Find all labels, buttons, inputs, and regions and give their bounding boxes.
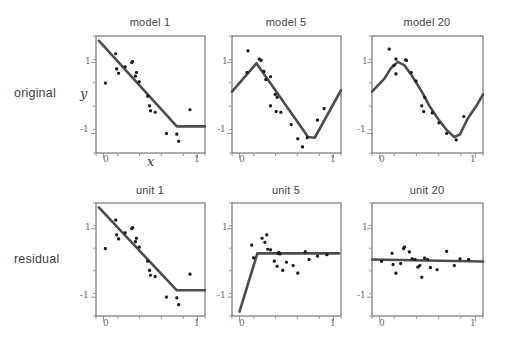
data-point xyxy=(380,260,383,263)
data-point xyxy=(260,59,263,62)
panel-frame-model-20 xyxy=(372,36,483,153)
data-point xyxy=(276,96,279,99)
ytick-bottom-unit-5: -1 xyxy=(217,290,226,300)
data-point xyxy=(274,93,277,96)
data-point xyxy=(275,110,278,113)
row-label-original: original xyxy=(14,86,56,100)
panel-title-unit-1: unit 1 xyxy=(96,184,204,196)
data-point xyxy=(175,133,178,136)
data-point xyxy=(276,265,279,268)
data-point xyxy=(304,250,307,253)
panel-model-5 xyxy=(227,36,341,158)
data-point xyxy=(281,269,284,272)
data-point xyxy=(418,264,421,267)
xtick-0-unit-1: 0 xyxy=(103,318,109,328)
data-point xyxy=(269,248,272,251)
data-point xyxy=(453,264,456,267)
data-point xyxy=(262,70,265,73)
data-point xyxy=(117,72,120,75)
xtick-1-model-20: 1 xyxy=(470,154,476,164)
data-point xyxy=(420,104,423,107)
data-point xyxy=(458,257,461,260)
data-point xyxy=(390,252,393,255)
data-point xyxy=(429,266,432,269)
ytick-top-unit-5: 1 xyxy=(222,222,228,232)
y-axis-label: y xyxy=(80,86,87,101)
panel-title-model-20: model 20 xyxy=(372,16,482,28)
data-point xyxy=(135,237,138,240)
data-point xyxy=(285,261,288,264)
data-point xyxy=(467,258,470,261)
data-point xyxy=(175,296,178,299)
data-point xyxy=(445,250,448,253)
data-point xyxy=(250,244,253,247)
ytick-top-model-5: 1 xyxy=(222,56,228,66)
data-point xyxy=(391,263,394,266)
data-point xyxy=(138,246,141,249)
data-point xyxy=(188,273,191,276)
data-point xyxy=(422,110,425,113)
data-point xyxy=(410,71,413,74)
panel-unit-20 xyxy=(367,203,483,321)
data-point xyxy=(117,237,120,240)
data-point xyxy=(165,132,168,135)
data-point xyxy=(138,80,141,83)
data-point xyxy=(426,258,429,261)
data-point xyxy=(154,275,157,278)
panel-unit-5 xyxy=(227,203,341,321)
x-axis-label: x xyxy=(147,154,154,169)
data-point xyxy=(290,123,293,126)
data-point xyxy=(177,303,180,306)
data-point xyxy=(316,118,319,121)
data-point xyxy=(325,253,328,256)
data-point xyxy=(263,241,266,244)
panel-title-unit-20: unit 20 xyxy=(372,184,482,196)
data-point xyxy=(388,48,391,51)
panel-frame-unit-5 xyxy=(232,203,341,316)
ytick-bottom-model-5: -1 xyxy=(217,124,226,134)
data-point xyxy=(104,247,107,250)
data-point xyxy=(394,72,397,75)
xtick-0-model-5: 0 xyxy=(239,154,245,164)
plot-surface xyxy=(0,0,505,344)
data-point xyxy=(455,138,458,141)
data-point xyxy=(246,49,249,52)
data-point xyxy=(279,111,282,114)
data-point xyxy=(423,96,426,99)
ytick-bottom-model-1: -1 xyxy=(80,124,89,134)
data-point xyxy=(392,64,395,67)
data-point xyxy=(134,74,137,77)
data-point xyxy=(296,272,299,275)
xtick-0-unit-20: 0 xyxy=(379,318,385,328)
data-point xyxy=(462,115,465,118)
data-point xyxy=(394,272,397,275)
data-point xyxy=(435,268,438,271)
data-point xyxy=(316,254,319,257)
ytick-bottom-unit-20: -1 xyxy=(357,290,366,300)
data-point xyxy=(278,252,281,255)
xtick-1-model-5: 1 xyxy=(330,154,336,164)
data-point xyxy=(269,75,272,78)
data-point xyxy=(420,276,423,279)
data-point xyxy=(149,274,152,277)
data-point xyxy=(269,104,272,107)
data-point xyxy=(124,231,127,234)
xtick-1-unit-20: 1 xyxy=(470,318,476,328)
data-point xyxy=(411,257,414,260)
panel-model-20 xyxy=(367,36,483,158)
data-point xyxy=(154,111,157,114)
data-point xyxy=(306,136,309,139)
xtick-1-unit-1: 1 xyxy=(194,318,200,328)
data-point xyxy=(188,108,191,111)
data-point xyxy=(124,65,127,68)
data-point xyxy=(413,258,416,261)
panel-title-unit-5: unit 5 xyxy=(232,184,340,196)
ytick-top-model-1: 1 xyxy=(85,56,91,66)
data-point xyxy=(414,79,417,82)
data-point xyxy=(322,107,325,110)
data-point xyxy=(266,248,269,251)
data-point xyxy=(437,121,440,124)
data-point xyxy=(264,78,267,81)
data-point xyxy=(115,233,118,236)
xtick-0-model-1: 0 xyxy=(103,154,109,164)
